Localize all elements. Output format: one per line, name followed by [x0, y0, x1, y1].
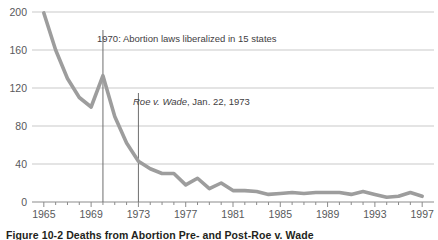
line-chart: 04080120160200 1965196919731977198119851…	[0, 0, 438, 226]
y-tick-label: 40	[15, 158, 27, 170]
x-tick-label: 1977	[174, 208, 198, 220]
x-axis-ticks	[44, 202, 422, 207]
x-tick-label: 1989	[316, 208, 340, 220]
vertical-marker-lines	[103, 30, 138, 202]
figure-caption: Figure 10-2 Deaths from Abortion Pre- an…	[6, 229, 436, 240]
figure-container: 04080120160200 1965196919731977198119851…	[0, 0, 438, 240]
x-tick-label: 1965	[32, 208, 56, 220]
x-tick-label: 1985	[269, 208, 293, 220]
x-tick-label: 1973	[127, 208, 151, 220]
annotation-roe-v-wade-label: Roe v. Wade, Jan. 22, 1973	[133, 96, 250, 107]
x-tick-label: 1993	[363, 208, 387, 220]
y-tick-label: 80	[15, 120, 27, 132]
y-axis-tick-labels: 04080120160200	[9, 6, 27, 208]
y-tick-label: 200	[9, 6, 27, 18]
y-tick-label: 120	[9, 82, 27, 94]
y-tick-label: 0	[21, 196, 27, 208]
x-axis-tick-labels: 196519691973197719811985198919931997	[32, 208, 434, 220]
y-tick-label: 160	[9, 44, 27, 56]
annotation-1970-label: 1970: Abortion laws liberalized in 15 st…	[97, 33, 277, 44]
x-tick-label: 1981	[221, 208, 245, 220]
x-tick-label: 1997	[410, 208, 434, 220]
x-tick-label: 1969	[79, 208, 103, 220]
chart-plot-area: 04080120160200 1965196919731977198119851…	[0, 0, 438, 226]
